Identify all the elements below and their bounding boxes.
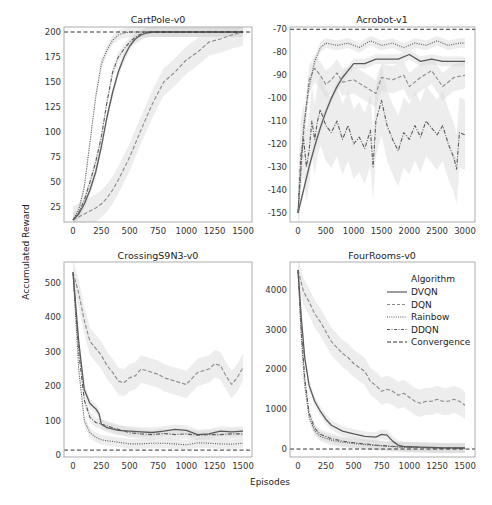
- figure: CartPole-v0 0250500750100012501500 25507…: [0, 0, 492, 505]
- x-tick-label: 1500: [371, 226, 393, 236]
- y-tick-label: -70: [273, 24, 287, 34]
- y-tick-label: 75: [50, 152, 61, 162]
- x-tick-label: 0: [70, 226, 75, 236]
- legend-label: Rainbow: [411, 312, 449, 322]
- y-tick-label: -100: [268, 93, 287, 103]
- x-tick-label: 500: [122, 461, 138, 471]
- x-tick-label: 500: [318, 226, 334, 236]
- x-tick-label: 1000: [176, 461, 198, 471]
- y-tick-label: 500: [45, 278, 61, 288]
- y-tick-label: 175: [45, 52, 61, 62]
- x-tick-label: 0: [295, 226, 300, 236]
- y-tick-label: -90: [273, 70, 287, 80]
- chart-title: CrossingS9N3-v0: [118, 250, 199, 261]
- y-tick-label: 200: [45, 27, 61, 37]
- y-tick-label: 1000: [265, 404, 287, 414]
- y-tick-label: -140: [268, 185, 287, 195]
- y-tick-label: -80: [273, 47, 287, 57]
- y-tick-label: 100: [45, 127, 61, 137]
- y-tick-label: 2000: [265, 364, 287, 374]
- x-tick-label: 0: [295, 461, 300, 471]
- x-tick-label: 1500: [454, 461, 476, 471]
- x-tick-label: 750: [150, 226, 166, 236]
- y-tick-label: -120: [268, 139, 287, 149]
- legend-label: DQN: [411, 300, 432, 310]
- x-tick-label: 1500: [232, 461, 254, 471]
- x-tick-label: 0: [70, 461, 75, 471]
- y-tick-label: 0: [282, 444, 287, 454]
- chart-title: CartPole-v0: [131, 14, 186, 25]
- y-tick-label: -150: [268, 208, 287, 218]
- x-tick-label: 750: [373, 461, 389, 471]
- x-tick-label: 250: [93, 226, 109, 236]
- y-tick-label: 300: [45, 347, 61, 357]
- y-tick-label: -110: [268, 116, 287, 126]
- chart-title: FourRooms-v0: [348, 250, 416, 261]
- x-tick-label: 2500: [426, 226, 448, 236]
- x-tick-label: 500: [122, 226, 138, 236]
- x-tick-label: 1250: [426, 461, 448, 471]
- x-tick-label: 1500: [232, 226, 254, 236]
- x-tick-label: 3000: [454, 226, 476, 236]
- legend-title: Algorithm: [411, 274, 455, 284]
- y-tick-label: 0: [56, 450, 61, 460]
- y-tick-label: 100: [45, 416, 61, 426]
- y-tick-label: 3000: [265, 325, 287, 335]
- x-tick-label: 250: [93, 461, 109, 471]
- y-tick-label: 4000: [265, 285, 287, 295]
- y-tick-label: -130: [268, 162, 287, 172]
- y-tick-label: 125: [45, 102, 61, 112]
- y-tick-label: 200: [45, 381, 61, 391]
- x-tick-label: 750: [150, 461, 166, 471]
- x-tick-label: 250: [318, 461, 334, 471]
- y-tick-label: 150: [45, 77, 61, 87]
- chart-title: Acrobot-v1: [356, 14, 407, 25]
- x-tick-label: 500: [346, 461, 362, 471]
- x-axis-label: Episodes: [250, 477, 290, 487]
- x-tick-label: 2000: [399, 226, 421, 236]
- y-tick-label: 25: [50, 202, 61, 212]
- x-tick-label: 1000: [343, 226, 365, 236]
- legend-label: Convergence: [411, 337, 471, 347]
- x-tick-label: 1000: [399, 461, 421, 471]
- legend-label: DVQN: [411, 287, 438, 297]
- x-tick-label: 1250: [204, 226, 226, 236]
- y-tick-label: 50: [50, 177, 61, 187]
- y-axis-label: Accumulated Reward: [21, 204, 31, 299]
- legend-label: DDQN: [411, 325, 439, 335]
- x-tick-label: 1250: [204, 461, 226, 471]
- y-tick-label: 400: [45, 312, 61, 322]
- x-tick-label: 1000: [176, 226, 198, 236]
